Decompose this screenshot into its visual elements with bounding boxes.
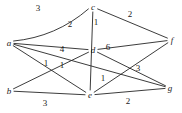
- edge-a-d: [14, 43, 88, 49]
- edge-b-e: [14, 91, 85, 95]
- node-label-f: f: [171, 36, 174, 45]
- edge-e-g: [95, 88, 165, 94]
- edge-weight-d-f: 6: [106, 43, 111, 52]
- edge-weight-a-g: 1: [60, 61, 65, 70]
- edge-weight-e-f: 1: [101, 74, 106, 83]
- edge-b-d: [13, 52, 88, 89]
- edge-weight-b-e: 3: [43, 99, 48, 108]
- edge-a-g: [14, 44, 165, 86]
- edge-weight-d-g: 3: [136, 64, 141, 73]
- edge-weight-a-c: 3: [36, 4, 41, 13]
- node-label-c: c: [91, 3, 95, 12]
- edge-weight-c-e: 1: [94, 18, 99, 27]
- edge-weight-a-e: 4: [60, 45, 65, 54]
- node-label-a: a: [7, 39, 12, 48]
- edge-c-f: [98, 9, 168, 38]
- edge-weight-b-d: 1: [44, 59, 49, 68]
- edge-weight-e-g: 2: [126, 97, 131, 106]
- node-label-g: g: [168, 84, 173, 93]
- edge-a-e: [13, 46, 86, 93]
- node-label-e: e: [88, 91, 92, 100]
- node-label-d: d: [91, 46, 96, 55]
- node-label-b: b: [7, 87, 12, 96]
- edge-weight-a-d: 2: [68, 20, 73, 29]
- edge-weight-c-f: 2: [128, 10, 133, 19]
- graph-diagram: abcdefg 324113126312: [0, 0, 182, 113]
- edge-a-c: [14, 9, 89, 41]
- edge-d-g: [97, 52, 165, 86]
